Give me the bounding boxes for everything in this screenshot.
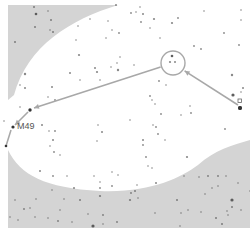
star xyxy=(223,32,225,34)
star xyxy=(50,19,52,21)
star xyxy=(24,73,26,75)
star xyxy=(238,44,240,46)
star xyxy=(240,9,242,11)
star xyxy=(187,209,189,211)
star xyxy=(165,84,167,86)
star xyxy=(198,176,200,178)
star xyxy=(134,190,136,192)
star xyxy=(14,41,16,43)
star xyxy=(24,87,26,89)
star xyxy=(149,27,151,29)
star xyxy=(164,139,166,141)
star xyxy=(35,198,37,200)
star xyxy=(87,213,89,215)
star xyxy=(57,220,59,222)
star xyxy=(154,103,156,105)
star xyxy=(221,223,223,225)
star xyxy=(52,31,54,33)
star xyxy=(119,56,121,58)
star xyxy=(129,119,131,121)
target-label-m49: M49 xyxy=(17,121,35,131)
star xyxy=(225,175,227,177)
key-star xyxy=(238,106,242,110)
star xyxy=(111,185,113,187)
star xyxy=(224,128,226,130)
star xyxy=(177,17,179,19)
star xyxy=(14,199,16,201)
star xyxy=(237,182,239,184)
star xyxy=(99,79,101,81)
star xyxy=(117,174,119,176)
star xyxy=(116,62,118,64)
star xyxy=(215,217,217,219)
star xyxy=(23,208,25,210)
star xyxy=(171,55,174,58)
star xyxy=(51,86,53,88)
star xyxy=(155,126,157,128)
star xyxy=(116,221,118,223)
star xyxy=(145,156,147,158)
star xyxy=(47,96,49,98)
key-star xyxy=(28,108,31,111)
star xyxy=(34,216,36,218)
star xyxy=(99,181,101,183)
star xyxy=(93,175,95,177)
star xyxy=(110,66,112,68)
star xyxy=(240,19,242,21)
star xyxy=(130,12,132,14)
key-star xyxy=(5,145,8,148)
star xyxy=(226,210,228,212)
star xyxy=(211,187,213,189)
star xyxy=(75,39,77,41)
star xyxy=(52,139,54,141)
star xyxy=(230,198,233,201)
start-marker-icon xyxy=(238,99,242,103)
star xyxy=(200,48,202,50)
star xyxy=(240,209,242,211)
star xyxy=(29,207,31,209)
star xyxy=(96,140,98,142)
star xyxy=(102,214,104,216)
star xyxy=(118,32,120,34)
star xyxy=(115,4,117,6)
star xyxy=(107,20,109,22)
star xyxy=(49,29,51,31)
star xyxy=(94,67,96,69)
star xyxy=(180,212,182,214)
star xyxy=(183,175,185,177)
star xyxy=(35,13,38,16)
star xyxy=(9,216,11,218)
star xyxy=(186,156,188,158)
star xyxy=(66,175,68,177)
mask-regions xyxy=(8,5,250,228)
hop-line-2 xyxy=(34,67,161,108)
star xyxy=(140,21,142,23)
star xyxy=(59,154,61,156)
star xyxy=(190,112,192,114)
star xyxy=(207,175,209,177)
star xyxy=(49,145,51,147)
star xyxy=(19,106,21,108)
star xyxy=(137,197,139,199)
star xyxy=(149,95,151,97)
star xyxy=(142,139,144,141)
star xyxy=(47,10,49,12)
hop-path xyxy=(5,51,242,147)
star xyxy=(147,165,149,167)
star xyxy=(142,144,144,146)
star xyxy=(142,13,144,15)
star xyxy=(78,54,80,56)
star xyxy=(136,184,138,186)
hop-line-1 xyxy=(185,71,238,105)
star xyxy=(193,45,195,47)
star xyxy=(3,120,5,122)
star xyxy=(217,175,219,177)
star xyxy=(91,224,94,227)
star xyxy=(155,182,157,184)
star xyxy=(39,170,41,172)
star xyxy=(157,133,159,135)
star xyxy=(151,167,153,169)
star xyxy=(179,225,181,227)
star xyxy=(77,25,79,27)
star xyxy=(33,6,35,8)
